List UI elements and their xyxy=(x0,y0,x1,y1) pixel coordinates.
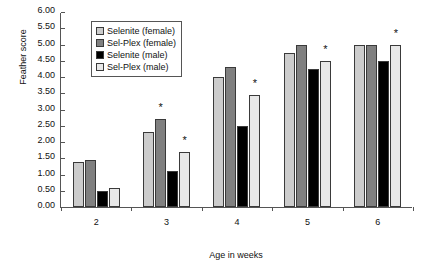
bar xyxy=(143,132,154,207)
y-axis-tick-label: 4.00 xyxy=(37,70,55,80)
y-axis-tick-label: 5.00 xyxy=(37,38,55,48)
y-axis-tick-label: 3.00 xyxy=(37,103,55,113)
significance-asterisk: * xyxy=(178,135,192,146)
x-axis-tick-label: 4 xyxy=(202,217,272,227)
y-axis-tick-label: 2.00 xyxy=(37,135,55,145)
significance-asterisk: * xyxy=(154,102,168,113)
legend-swatch xyxy=(96,27,104,35)
x-axis-separator xyxy=(343,207,344,211)
y-axis-tick-label: 0.50 xyxy=(37,184,55,194)
bar xyxy=(85,160,96,207)
legend-label: Sel-Plex (female) xyxy=(107,38,176,48)
y-axis-tick-label: 5.50 xyxy=(37,21,55,31)
bar xyxy=(97,191,108,207)
x-axis-separator xyxy=(202,207,203,211)
y-axis-title: Feather score xyxy=(18,0,28,122)
y-axis-tick-label: 1.00 xyxy=(37,168,55,178)
y-axis-tick-label: 4.50 xyxy=(37,54,55,64)
bar-group xyxy=(343,13,413,207)
bar-group xyxy=(202,13,272,207)
x-axis-tick-label: 6 xyxy=(343,217,413,227)
bar xyxy=(354,45,365,208)
x-axis-tick-label: 5 xyxy=(272,217,342,227)
bar xyxy=(155,119,166,207)
legend: Selenite (female)Sel-Plex (female)Seleni… xyxy=(91,21,182,77)
bar-chart: Feather score Age in weeks 0.000.501.001… xyxy=(0,0,421,270)
x-axis-tick-label: 3 xyxy=(131,217,201,227)
x-axis-separator xyxy=(131,207,132,211)
y-axis-tick-label: 3.50 xyxy=(37,86,55,96)
bar xyxy=(390,45,401,208)
x-axis-separator xyxy=(413,207,414,211)
bar xyxy=(284,53,295,207)
significance-asterisk: * xyxy=(318,44,332,55)
bar xyxy=(109,188,120,208)
bar xyxy=(237,126,248,207)
bar xyxy=(308,69,319,207)
legend-label: Selenite (female) xyxy=(107,26,175,36)
bar xyxy=(296,45,307,208)
x-axis-separator xyxy=(61,207,62,211)
bar xyxy=(320,61,331,207)
y-axis-tick-label: 2.50 xyxy=(37,119,55,129)
legend-item: Sel-Plex (female) xyxy=(96,37,176,49)
legend-swatch xyxy=(96,51,104,59)
bar xyxy=(73,162,84,208)
legend-swatch xyxy=(96,39,104,47)
x-axis-title: Age in weeks xyxy=(60,250,412,260)
legend-item: Sel-Plex (male) xyxy=(96,61,176,73)
y-axis-tick-label: 1.50 xyxy=(37,151,55,161)
x-axis-tick-label: 2 xyxy=(61,217,131,227)
legend-swatch xyxy=(96,63,104,71)
legend-item: Selenite (male) xyxy=(96,49,176,61)
bar xyxy=(378,61,389,207)
y-axis-tick-label: 6.00 xyxy=(37,5,55,15)
bar xyxy=(213,77,224,207)
significance-asterisk: * xyxy=(248,78,262,89)
legend-label: Selenite (male) xyxy=(107,50,168,60)
bar xyxy=(179,152,190,207)
bar xyxy=(225,67,236,207)
bar xyxy=(249,95,260,207)
bar xyxy=(366,45,377,208)
y-axis-tick-label: 0.00 xyxy=(37,200,55,210)
legend-label: Sel-Plex (male) xyxy=(107,62,169,72)
legend-item: Selenite (female) xyxy=(96,25,176,37)
significance-asterisk: * xyxy=(389,28,403,39)
x-axis-separator xyxy=(272,207,273,211)
bar xyxy=(167,171,178,207)
bar-group xyxy=(272,13,342,207)
